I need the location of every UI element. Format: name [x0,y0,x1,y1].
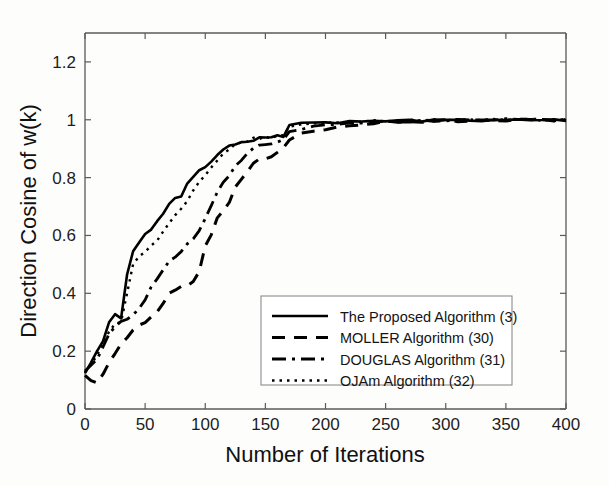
x-axis-title: Number of Iterations [225,442,424,467]
y-tick-label-1: 1 [67,111,76,130]
y-tick-label-1.2: 1.2 [52,53,76,72]
x-tick-label-350: 350 [492,415,520,434]
y-axis-title: Direction Cosine of w(k) [16,104,41,338]
y-tick-label-0.6: 0.6 [52,226,76,245]
line-chart: 050100150200250300350400 00.20.40.60.811… [0,0,609,485]
figure-background [0,0,609,485]
y-tick-label-0.2: 0.2 [52,342,76,361]
x-tick-label-200: 200 [311,415,339,434]
y-tick-label-0: 0 [67,400,76,419]
y-tick-label-0.8: 0.8 [52,169,76,188]
x-tick-label-250: 250 [371,415,399,434]
x-tick-label-50: 50 [136,415,155,434]
legend-label-0: The Proposed Algorithm (3) [340,309,517,325]
legend-label-1: MOLLER Algorithm (30) [340,330,494,346]
legend-label-2: DOUGLAS Algorithm (31) [340,352,505,368]
legend-label-3: OJAm Algorithm (32) [340,373,475,389]
x-tick-label-400: 400 [552,415,580,434]
legend: The Proposed Algorithm (3)MOLLER Algorit… [261,296,517,389]
y-tick-label-0.4: 0.4 [52,284,76,303]
chart-figure: 050100150200250300350400 00.20.40.60.811… [0,0,609,485]
x-tick-label-300: 300 [432,415,460,434]
x-tick-label-150: 150 [251,415,279,434]
x-tick-label-100: 100 [191,415,219,434]
x-tick-label-0: 0 [80,415,89,434]
